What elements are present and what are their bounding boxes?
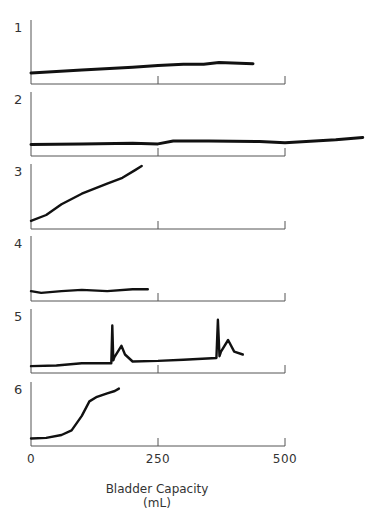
panel-label-4: 4: [14, 236, 22, 251]
panel-label-3: 3: [14, 164, 22, 179]
panel-5: [31, 309, 285, 373]
panel-4: [31, 236, 285, 301]
panel-3: [31, 164, 285, 229]
curve-6: [31, 389, 119, 439]
x-tick-label: 0: [27, 452, 35, 466]
x-axis-label: Bladder Capacity: [106, 482, 209, 496]
x-axis-unit: (mL): [106, 496, 209, 510]
curve-1: [31, 63, 253, 73]
chart-area: [0, 0, 378, 521]
curve-2: [31, 138, 363, 145]
x-tick-label: 250: [146, 452, 170, 466]
curve-5: [31, 320, 243, 366]
x-axis-title: Bladder Capacity (mL): [106, 482, 209, 510]
panel-label-6: 6: [14, 382, 22, 397]
panel-label-5: 5: [14, 309, 22, 324]
x-tick-label: 500: [273, 452, 297, 466]
panel-6: [31, 382, 285, 446]
curve-3: [31, 166, 142, 221]
panel-1: [31, 20, 285, 84]
panel-label-2: 2: [14, 92, 22, 107]
panel-2: [31, 92, 363, 156]
panel-label-1: 1: [14, 20, 22, 35]
curve-4: [31, 289, 148, 293]
